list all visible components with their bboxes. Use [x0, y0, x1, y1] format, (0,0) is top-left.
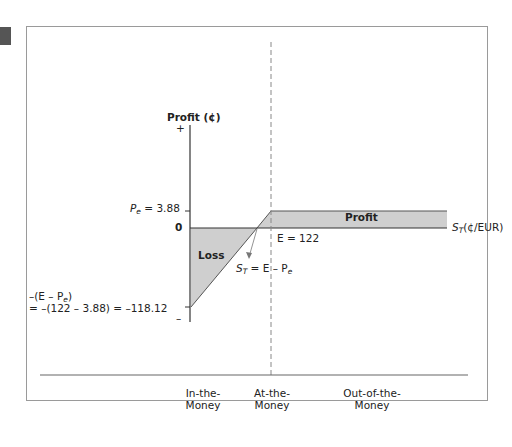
y-plus: +	[176, 123, 185, 135]
premium-label: Pe = 3.88	[130, 203, 180, 216]
profit-region-label: Profit	[345, 212, 378, 224]
breakeven-label: ST = E – Pe	[236, 263, 292, 276]
zero-label: 0	[175, 222, 182, 234]
loss-region-label: Loss	[198, 250, 224, 262]
out-of-the-money-label: Out-of-the-Money	[338, 388, 406, 411]
y-minus: –	[176, 313, 181, 325]
max-loss-line2: = –(122 – 3.88) = –118.12	[29, 303, 167, 315]
payoff-diagram	[0, 0, 512, 447]
at-the-money-label: At-the-Money	[249, 388, 295, 411]
strike-label: E = 122	[277, 233, 319, 245]
x-axis-label: ST(¢/EUR)	[452, 222, 503, 235]
in-the-money-label: In-the-Money	[180, 388, 226, 411]
